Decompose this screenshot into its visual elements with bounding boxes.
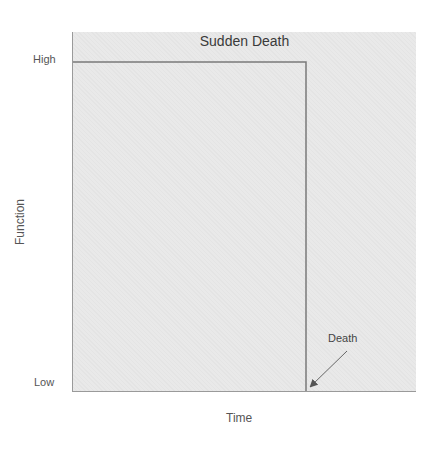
y-tick-low: Low bbox=[34, 376, 54, 388]
y-axis-label: Function bbox=[13, 199, 27, 245]
y-tick-high: High bbox=[33, 53, 56, 65]
chart-title: Sudden Death bbox=[73, 33, 416, 49]
function-curve bbox=[0, 0, 442, 455]
sudden-death-line bbox=[73, 62, 306, 391]
x-axis-label: Time bbox=[226, 411, 252, 425]
death-annotation: Death bbox=[328, 332, 357, 344]
death-arrow-icon bbox=[311, 351, 347, 386]
